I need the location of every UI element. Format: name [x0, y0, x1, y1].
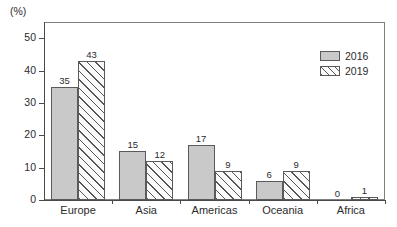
legend-swatch-solid-icon — [320, 51, 340, 61]
legend-label-2016: 2016 — [345, 50, 368, 62]
bar-chart: (%) 01020304050 354315121796901 EuropeAs… — [0, 0, 397, 227]
bar-value-label: 9 — [294, 159, 299, 170]
bar-value-label: 1 — [362, 185, 367, 196]
bar-value-label: 15 — [128, 139, 139, 150]
legend: 2016 2019 — [320, 50, 368, 77]
legend-item-2016: 2016 — [320, 50, 368, 62]
x-axis-category-label-europe: Europe — [60, 204, 95, 216]
bars-layer: 354315121796901 — [0, 0, 397, 227]
x-axis-category-label-asia: Asia — [136, 204, 157, 216]
bar-value-label: 17 — [196, 133, 207, 144]
bar-value-label: 9 — [225, 159, 230, 170]
bar-value-label: 35 — [59, 75, 70, 86]
bar-africa-2019 — [351, 197, 378, 200]
bar-americas-2019 — [215, 171, 242, 200]
bar-asia-2019 — [146, 161, 173, 200]
x-axis-category-label-oceania: Oceania — [262, 204, 303, 216]
legend-label-2019: 2019 — [345, 65, 368, 77]
bar-europe-2016 — [51, 87, 78, 200]
x-axis-category-label-africa: Africa — [337, 204, 365, 216]
bar-oceania-2019 — [283, 171, 310, 200]
bar-americas-2016 — [188, 145, 215, 200]
bar-asia-2016 — [119, 151, 146, 200]
bar-value-label: 43 — [86, 49, 97, 60]
bar-europe-2019 — [78, 61, 105, 200]
bar-value-label: 12 — [155, 149, 166, 160]
legend-swatch-hatch-icon — [320, 66, 340, 76]
bar-value-label: 0 — [335, 188, 340, 199]
bar-value-label: 6 — [267, 169, 272, 180]
x-axis-category-label-americas: Americas — [192, 204, 238, 216]
legend-item-2019: 2019 — [320, 65, 368, 77]
bar-oceania-2016 — [256, 181, 283, 200]
